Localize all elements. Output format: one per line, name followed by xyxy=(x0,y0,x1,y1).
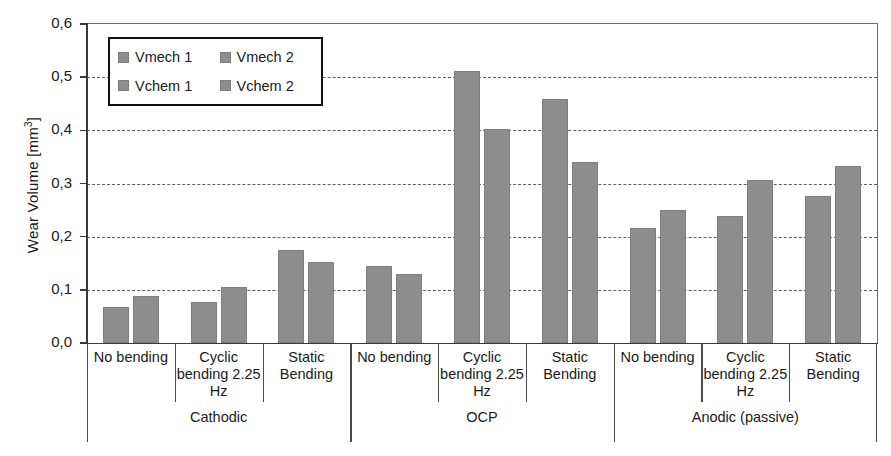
legend-item-vmech-2: Vmech 2 xyxy=(220,49,322,65)
y-axis-tick-label: 0,6 xyxy=(12,14,72,31)
x-axis-category-text: Cyclic bending 2.25 Hz xyxy=(701,349,789,400)
x-axis-separator xyxy=(263,344,264,402)
bar xyxy=(308,262,334,343)
y-axis-tick-label: 0,0 xyxy=(12,333,72,350)
bar xyxy=(805,196,831,343)
legend-swatch-icon xyxy=(220,52,231,63)
bar xyxy=(542,99,568,343)
y-axis-tick-label: 0,5 xyxy=(12,67,72,84)
bar xyxy=(454,71,480,343)
x-axis-separator xyxy=(526,344,527,402)
x-axis-separator xyxy=(438,344,439,402)
bar xyxy=(191,302,217,343)
x-axis-category-label: Cyclic bending 2.25 Hz xyxy=(438,344,526,402)
x-axis-category-text: Static Bending xyxy=(526,349,614,383)
x-axis-category-text: No bending xyxy=(620,349,694,366)
x-axis-category-text: Cyclic bending 2.25 Hz xyxy=(175,349,263,400)
x-axis-category-label: No bending xyxy=(350,344,438,402)
plot-border-right xyxy=(877,23,878,344)
x-axis-category-label: Static Bending xyxy=(789,344,877,402)
bar xyxy=(484,129,510,343)
x-axis-category-label: Cyclic bending 2.25 Hz xyxy=(175,344,263,402)
legend-item-vchem-1: Vchem 1 xyxy=(118,78,220,94)
x-axis-group-text: OCP xyxy=(466,409,497,425)
x-axis-category-label: Static Bending xyxy=(526,344,614,402)
legend-swatch-icon xyxy=(220,80,231,91)
x-axis-group-text: Anodic (passive) xyxy=(692,409,799,425)
legend-swatch-icon xyxy=(118,80,129,91)
x-axis-category-label: No bending xyxy=(614,344,702,402)
legend-label: Vchem 1 xyxy=(135,78,192,94)
bar xyxy=(396,274,422,343)
legend-label: Vchem 2 xyxy=(237,78,294,94)
bar xyxy=(717,216,743,343)
legend-label: Vmech 1 xyxy=(135,49,192,65)
x-axis-category-label: No bending xyxy=(87,344,175,402)
bar xyxy=(572,162,598,343)
x-axis-category-text: Cyclic bending 2.25 Hz xyxy=(438,349,526,400)
x-axis-group-text: Cathodic xyxy=(190,409,247,425)
x-axis-category-text: No bending xyxy=(357,349,431,366)
y-axis-tick-label: 0,4 xyxy=(12,120,72,137)
bar xyxy=(660,210,686,343)
bar xyxy=(278,250,304,343)
x-axis-group-label: OCP xyxy=(350,402,613,442)
x-axis-group-label: Anodic (passive) xyxy=(614,402,877,442)
bar xyxy=(747,180,773,343)
y-axis-tick-label: 0,3 xyxy=(12,174,72,191)
y-axis-tick-label: 0,2 xyxy=(12,227,72,244)
x-axis-group-row: CathodicOCPAnodic (passive) xyxy=(87,402,877,442)
x-axis-category-label: Cyclic bending 2.25 Hz xyxy=(701,344,789,402)
x-axis-category-row: No bendingCyclic bending 2.25 HzStatic B… xyxy=(87,344,877,402)
x-axis-separator xyxy=(789,344,790,402)
bar xyxy=(630,228,656,343)
bar xyxy=(103,307,129,343)
bar xyxy=(133,296,159,343)
legend-item-vchem-2: Vchem 2 xyxy=(220,78,322,94)
bar xyxy=(835,166,861,343)
x-axis-category-text: Static Bending xyxy=(263,349,351,383)
legend-item-vmech-1: Vmech 1 xyxy=(118,49,220,65)
y-axis-tick-label: 0,1 xyxy=(12,280,72,297)
legend-label: Vmech 2 xyxy=(237,49,294,65)
x-axis-category-text: Static Bending xyxy=(789,349,877,383)
legend-swatch-icon xyxy=(118,52,129,63)
x-axis-separator xyxy=(175,344,176,402)
chart-figure: Wear Volume [mm3] 0,60,50,40,30,20,10,0 … xyxy=(0,0,891,456)
x-axis-category-text: No bending xyxy=(94,349,168,366)
bar xyxy=(221,287,247,343)
x-axis-separator xyxy=(701,344,702,402)
bar xyxy=(366,266,392,343)
x-axis-group-label: Cathodic xyxy=(87,402,350,442)
chart-legend: Vmech 1 Vmech 2 Vchem 1 Vchem 2 xyxy=(108,37,323,106)
x-axis-category-label: Static Bending xyxy=(263,344,351,402)
